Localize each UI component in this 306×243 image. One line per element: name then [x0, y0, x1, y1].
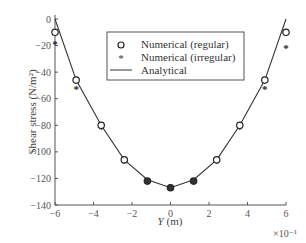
regular-circle-marker	[121, 157, 127, 163]
legend-star-icon: *	[118, 52, 124, 64]
regular-circle-marker	[283, 29, 289, 35]
x-tick-label: 4	[245, 208, 250, 219]
irregular-star-marker: *	[262, 83, 268, 95]
y-tick-label: −20	[35, 40, 51, 51]
irregular-star-marker: *	[283, 42, 289, 54]
regular-circle-marker	[52, 29, 58, 35]
shear-stress-chart: 0−20−40−60−80−100−120−140−6−4−20246 ****…	[0, 0, 306, 243]
x-tick-label: 2	[207, 208, 212, 219]
legend-label-irregular: Numerical (irregular)	[141, 51, 236, 64]
legend-label-analytical: Analytical	[141, 64, 187, 76]
y-tick-label: 0	[46, 14, 51, 25]
x-axis-label: Y (m)	[158, 215, 183, 228]
x-tick-label: −4	[88, 208, 99, 219]
x-tick-label: −6	[50, 208, 61, 219]
x-tick-label: 6	[284, 208, 289, 219]
regular-circle-marker	[262, 77, 268, 83]
x-tick-label: −2	[127, 208, 138, 219]
x-axis-multiplier: ×10⁻¹	[273, 228, 297, 239]
y-tick-label: −140	[30, 200, 51, 211]
regular-circle-marker	[167, 185, 173, 191]
irregular-star-marker: *	[73, 83, 79, 95]
y-tick-label: −120	[30, 173, 51, 184]
irregular-star-marker: *	[52, 38, 58, 50]
y-axis-label: Shear stress (N/m²)	[26, 69, 39, 155]
legend-label-regular: Numerical (regular)	[141, 38, 229, 51]
regular-circle-marker	[73, 77, 79, 83]
legend: Numerical (regular) * Numerical (irregul…	[107, 32, 244, 80]
regular-circle-marker	[98, 122, 104, 128]
regular-circle-marker	[144, 178, 150, 184]
regular-circle-marker	[214, 157, 220, 163]
regular-circle-marker	[237, 122, 243, 128]
regular-circle-marker	[190, 178, 196, 184]
